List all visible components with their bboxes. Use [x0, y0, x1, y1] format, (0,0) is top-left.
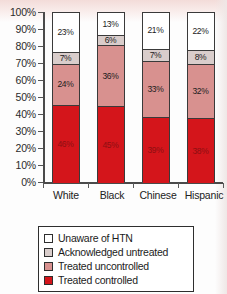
bar-segment[interactable]: 22% [188, 13, 214, 50]
bar-segment[interactable]: 8% [188, 50, 214, 64]
y-axis-tick-label: 90% [16, 24, 36, 34]
legend-label: Unaware of HTN [58, 232, 133, 244]
bar-slot: 23%7%24%46% [43, 12, 88, 182]
x-axis-category-label: White [43, 189, 89, 201]
chart-screenshot: 100%90%80%70%60%50%40%30%20%10%0% 23%7%2… [0, 0, 227, 294]
y-axis-tick-label: 30% [16, 126, 36, 136]
y-axis-tick-label: 50% [16, 92, 36, 102]
legend-item[interactable]: Unaware of HTN [44, 231, 188, 245]
legend-swatch-icon [44, 276, 53, 285]
x-axis-category-label: Black [89, 189, 135, 201]
y-axis-tick-label: 100% [10, 7, 36, 17]
y-axis-tick-label: 70% [16, 58, 36, 68]
segment-value-label: 33% [147, 85, 163, 94]
bar-slot: 21%7%33%39% [133, 12, 178, 182]
x-axis-tick-mark [43, 183, 44, 188]
y-axis-tick-label: 0% [21, 177, 36, 187]
legend-swatch-icon [44, 262, 53, 271]
bar-segment[interactable]: 36% [98, 45, 124, 106]
bar-slot: 22%8%32%38% [178, 12, 223, 182]
segment-value-label: 32% [192, 87, 208, 96]
legend-item[interactable]: Treated controlled [44, 273, 188, 287]
x-axis-tick-mark [223, 183, 224, 188]
y-axis-tick-label: 60% [16, 75, 36, 85]
legend-label: Acknowledged untreated [58, 246, 168, 258]
y-axis-tick-label: 20% [16, 143, 36, 153]
segment-value-label: 7% [150, 51, 162, 60]
bar-segment[interactable]: 7% [143, 49, 169, 61]
x-axis-labels: WhiteBlackChineseHispanic [43, 189, 227, 201]
legend-label: Treated uncontrolled [58, 260, 149, 272]
segment-value-label: 23% [57, 28, 73, 37]
segment-value-label: 8% [195, 53, 207, 62]
legend-label: Treated controlled [58, 274, 138, 286]
x-axis-category-label: Hispanic [181, 189, 227, 201]
y-axis-tick-label: 80% [16, 41, 36, 51]
stacked-bar-chart: 100%90%80%70%60%50%40%30%20%10%0% 23%7%2… [0, 12, 227, 200]
bar-segment[interactable]: 46% [53, 105, 79, 183]
legend-swatch-icon [44, 234, 53, 243]
bar-segment[interactable]: 23% [53, 13, 79, 52]
bar-segment[interactable]: 7% [53, 52, 79, 64]
segment-value-label: 22% [192, 27, 208, 36]
x-axis-category-label: Chinese [135, 189, 181, 201]
legend-item[interactable]: Acknowledged untreated [44, 245, 188, 259]
bar-segment[interactable]: 21% [143, 13, 169, 49]
stacked-bar[interactable]: 13%6%36%45% [97, 12, 125, 182]
segment-value-label: 7% [60, 54, 72, 63]
bar-group-container: 23%7%24%46%13%6%36%45%21%7%33%39%22%8%32… [43, 12, 223, 182]
x-axis-tick-mark [88, 183, 89, 188]
segment-value-label: 6% [105, 36, 117, 45]
segment-value-label: 45% [102, 141, 118, 150]
y-axis-labels: 100%90%80%70%60%50%40%30%20%10%0% [0, 12, 42, 192]
segment-value-label: 38% [192, 147, 208, 156]
segment-value-label: 24% [57, 80, 73, 89]
bar-segment[interactable]: 45% [98, 106, 124, 183]
bar-segment[interactable]: 24% [53, 64, 79, 105]
bar-segment[interactable]: 33% [143, 61, 169, 117]
stacked-bar[interactable]: 22%8%32%38% [187, 12, 215, 182]
segment-value-label: 36% [102, 72, 118, 81]
bar-segment[interactable]: 32% [188, 64, 214, 118]
segment-value-label: 39% [147, 146, 163, 155]
stacked-bar[interactable]: 21%7%33%39% [142, 12, 170, 182]
legend-item[interactable]: Treated uncontrolled [44, 259, 188, 273]
legend-swatch-icon [44, 248, 53, 257]
bar-segment[interactable]: 39% [143, 117, 169, 183]
stacked-bar[interactable]: 23%7%24%46% [52, 12, 80, 182]
chart-legend: Unaware of HTNAcknowledged untreatedTrea… [38, 226, 194, 292]
x-axis-tick-mark [133, 183, 134, 188]
segment-value-label: 46% [57, 140, 73, 149]
bar-segment[interactable]: 38% [188, 118, 214, 183]
segment-value-label: 13% [102, 20, 118, 29]
y-axis-tick-label: 10% [16, 160, 36, 170]
segment-value-label: 21% [147, 26, 163, 35]
bar-segment[interactable]: 13% [98, 13, 124, 35]
y-axis-tick-label: 40% [16, 109, 36, 119]
bar-segment[interactable]: 6% [98, 35, 124, 45]
x-axis-tick-mark [178, 183, 179, 188]
bar-slot: 13%6%36%45% [88, 12, 133, 182]
